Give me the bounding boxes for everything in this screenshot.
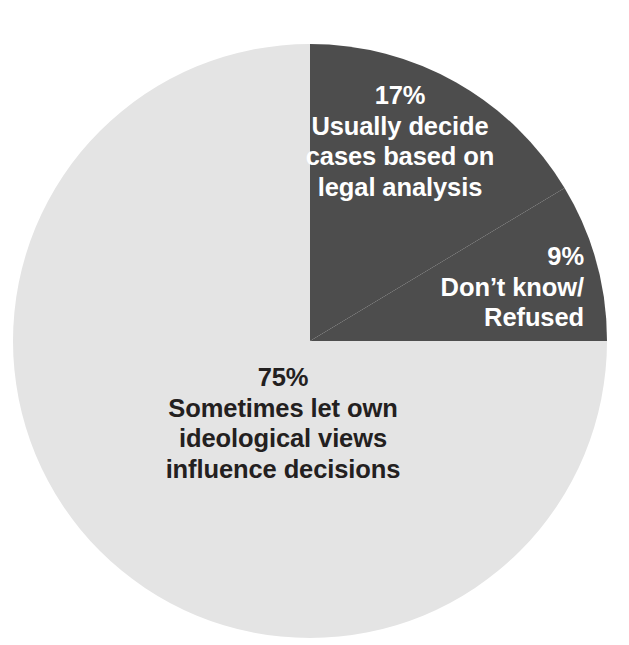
slice-percent-ideological: 75% — [112, 362, 454, 393]
slice-label-legal-analysis-line3: legal analysis — [268, 172, 532, 203]
slice-label-dont-know-refused: 9% Don’t know/ Refused — [323, 241, 584, 333]
slice-label-legal-analysis-line1: Usually decide — [268, 111, 532, 142]
slice-label-ideological-line2: ideological views — [112, 423, 454, 454]
slice-label-legal-analysis-line2: cases based on — [268, 141, 532, 172]
slice-label-ideological-views: 75% Sometimes let own ideological views … — [112, 362, 454, 484]
slice-label-ideological-line3: influence decisions — [112, 454, 454, 485]
slice-label-dont-know-line1: Don’t know/ — [323, 272, 584, 303]
slice-label-ideological-line1: Sometimes let own — [112, 393, 454, 424]
slice-percent-dont-know: 9% — [323, 241, 584, 272]
slice-percent-legal-analysis: 17% — [268, 80, 532, 111]
pie-chart: 17% Usually decide cases based on legal … — [0, 0, 629, 645]
slice-label-dont-know-line2: Refused — [323, 302, 584, 333]
slice-label-legal-analysis: 17% Usually decide cases based on legal … — [268, 80, 532, 202]
